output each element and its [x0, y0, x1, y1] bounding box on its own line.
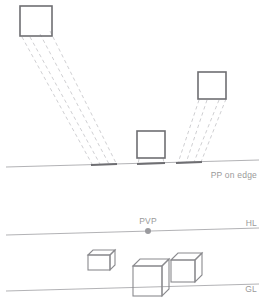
left-ray-bundle	[22, 31, 116, 164]
perspective-cubes	[88, 250, 202, 296]
left-trace	[91, 164, 117, 165]
sight-ray	[201, 99, 226, 162]
plan-view-group: PP on edge	[6, 6, 259, 180]
sight-ray	[186, 100, 207, 163]
vanishing-point-dot	[145, 228, 151, 234]
perspective-construction-diagram: PP on edge PVP HL GL	[0, 0, 265, 299]
perspective-view-group: PVP HL GL	[6, 216, 259, 296]
cube-edge	[171, 253, 202, 260]
diagram-canvas: PP on edge PVP HL GL	[0, 0, 265, 299]
sight-ray	[178, 100, 199, 163]
center-trace	[137, 163, 165, 164]
left-cube	[88, 250, 115, 270]
right-cube	[171, 253, 202, 282]
cube-edge	[162, 259, 169, 296]
sight-ray	[22, 37, 92, 164]
cube-edge	[195, 253, 202, 282]
pvp-label: PVP	[139, 216, 157, 226]
plan-squares	[20, 6, 226, 158]
cube-edge	[133, 266, 162, 296]
sight-ray-bundles	[22, 31, 226, 164]
center-cube	[133, 259, 169, 296]
sight-ray	[50, 31, 116, 163]
cube-edge	[88, 255, 110, 270]
left-square	[20, 6, 52, 36]
sight-ray	[30, 37, 100, 164]
picture-plane-traces	[91, 162, 202, 165]
right-trace	[176, 162, 202, 163]
cube-edge	[110, 250, 115, 270]
horizon-line	[6, 228, 259, 235]
center-square	[137, 131, 165, 158]
ground-line-label: GL	[245, 284, 257, 294]
picture-plane-line	[6, 160, 259, 167]
right-square	[198, 72, 226, 99]
sight-ray	[40, 34, 109, 164]
right-ray-bundle	[178, 99, 226, 163]
horizon-line-label: HL	[246, 218, 257, 228]
pp-on-edge-label: PP on edge	[211, 170, 257, 180]
cube-edge	[171, 260, 195, 282]
sight-ray	[194, 100, 219, 162]
